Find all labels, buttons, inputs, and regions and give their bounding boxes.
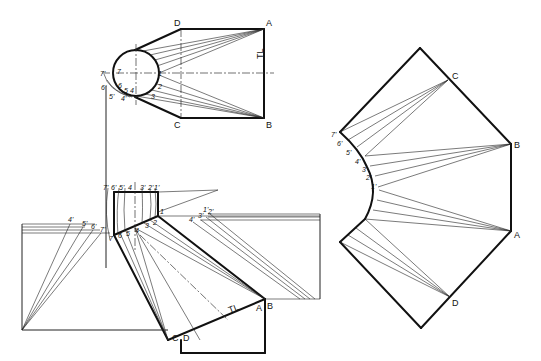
point-label: 4' [355,158,361,165]
point-label: 4 [128,184,132,191]
point-label: 4' [189,216,195,223]
point-label: 3 [151,93,155,100]
point-label: 6 [118,82,122,89]
corner-label-c: C [174,120,181,130]
point-label: 6' [91,223,97,230]
corner-label-d: D [183,333,190,343]
point-label: 5 [126,230,130,237]
point-label: 5' [109,93,115,100]
point-label: 7' [103,184,109,191]
point-label: 2 [152,219,157,226]
point-label: 3' [362,166,368,173]
point-label: 7 [117,68,122,75]
point-label: 6 [118,232,122,239]
corner-label-b: B [514,140,520,150]
corner-label-a: A [256,303,262,313]
elevation-view: 7' 6' 5' 4 3' 2' 1' 7 6 5 4 3 2 1 4' 5' … [22,182,320,353]
point-label: 6' [101,84,107,91]
point-label: 1' [154,184,160,191]
corner-label-c: C [452,71,459,81]
tl-label: TL [227,302,240,315]
point-label: 2' [365,174,372,181]
point-label: 3' [198,212,204,219]
point-label: 4' [121,95,127,102]
point-label: 7' [100,70,106,77]
tl-label: TL [255,48,265,59]
corner-label-a: A [514,230,520,240]
point-label: 5' [346,149,352,156]
point-label: 5' [82,220,88,227]
point-label: 6' [111,184,117,191]
point-label: 3' [140,184,146,191]
point-label: 3 [145,222,149,229]
point-label: 5 [124,87,128,94]
corner-label-a: A [266,18,272,28]
point-label: 4' [68,216,74,223]
development-pattern: C B A D 7' 6' 5' 4' 3' 2' 1' [331,48,520,328]
point-label: 7' [100,226,106,233]
point-label: 1 [160,208,164,215]
corner-label-d: D [174,18,181,28]
point-label: 1' [371,183,377,190]
point-label: 7 [109,235,114,242]
corner-label-d: D [452,298,459,308]
point-label: 4 [130,87,134,94]
point-label: 6' [337,140,343,147]
point-label: 4 [135,227,139,234]
point-label: 2' [147,184,154,191]
point-label: 2 [157,83,162,90]
point-label: 2' [207,208,214,215]
point-label: 7' [331,131,337,138]
point-label: 5' [119,184,125,191]
corner-label-c: C [172,333,179,343]
point-label: 1 [158,70,162,77]
drawing-canvas: D A B C TL 1 2 3 4 5 6 7 7' 6' 5' 4' [0,0,541,361]
corner-label-b: B [266,120,272,130]
corner-label-b: B [267,301,273,311]
